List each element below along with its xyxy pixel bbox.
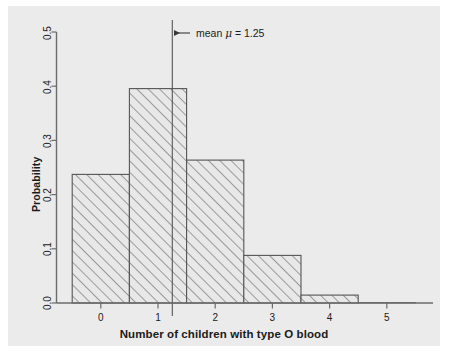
x-tick-label-1: 1 — [145, 312, 171, 323]
y-tick-label-4: 0.4 — [42, 80, 53, 94]
mu-symbol: μ — [225, 27, 232, 39]
bar-1 — [129, 89, 186, 303]
x-tick-label-2: 2 — [202, 312, 228, 323]
histogram-plot — [8, 6, 440, 346]
bars-group — [72, 89, 415, 303]
x-tick-label-3: 3 — [259, 312, 285, 323]
mean-annotation-suffix: = 1.25 — [232, 27, 264, 39]
bar-2 — [187, 160, 244, 303]
y-tick-label-1: 0.1 — [42, 242, 53, 256]
plot-panel: mean μ = 1.25 0.0 0.1 0.2 0.3 0.4 0.5 0 … — [8, 6, 440, 346]
bar-3 — [244, 255, 301, 303]
bar-0 — [72, 174, 129, 303]
y-axis-ticks — [52, 32, 57, 303]
x-tick-label-4: 4 — [317, 312, 343, 323]
mean-annotation-prefix: mean — [196, 27, 225, 39]
bar-4 — [301, 295, 358, 303]
y-tick-label-5: 0.5 — [42, 26, 53, 40]
mean-annotation: mean μ = 1.25 — [196, 27, 264, 39]
y-tick-label-2: 0.2 — [42, 188, 53, 202]
figure-canvas: mean μ = 1.25 0.0 0.1 0.2 0.3 0.4 0.5 0 … — [0, 0, 454, 357]
x-tick-label-5: 5 — [374, 312, 400, 323]
x-axis-title: Number of children with type O blood — [8, 328, 440, 340]
x-axis-ticks — [101, 303, 387, 309]
y-axis-title: Probability — [30, 157, 42, 212]
x-tick-label-0: 0 — [88, 312, 114, 323]
y-tick-label-3: 0.3 — [42, 134, 53, 148]
y-tick-label-0: 0.0 — [42, 296, 53, 310]
